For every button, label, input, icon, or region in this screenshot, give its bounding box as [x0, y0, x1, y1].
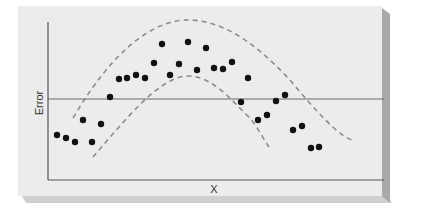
data-point [316, 144, 322, 150]
data-point [264, 112, 270, 118]
x-axis-label: X [210, 183, 218, 195]
data-point [282, 92, 288, 98]
data-point [107, 94, 113, 100]
data-point [54, 132, 60, 138]
chart-panel [18, 6, 382, 196]
data-point [308, 145, 314, 151]
data-point [211, 65, 217, 71]
data-point [220, 66, 226, 72]
data-point [245, 75, 251, 81]
data-point [89, 139, 95, 145]
data-point [80, 117, 86, 123]
data-point [194, 67, 200, 73]
data-point [63, 135, 69, 141]
data-point [167, 72, 173, 78]
data-point [273, 98, 279, 104]
data-point [98, 121, 104, 127]
data-point [185, 39, 191, 45]
data-point [72, 139, 78, 145]
data-point [124, 75, 130, 81]
data-point [116, 76, 122, 82]
data-point [299, 123, 305, 129]
data-point [203, 45, 209, 51]
scatter-chart: X Error [0, 0, 423, 222]
data-point [142, 75, 148, 81]
data-point [255, 117, 261, 123]
chart-figure: X Error [0, 0, 423, 222]
data-point [238, 99, 244, 105]
data-point [229, 59, 235, 65]
data-point [176, 61, 182, 67]
data-point [133, 72, 139, 78]
data-point [290, 127, 296, 133]
data-point [159, 41, 165, 47]
data-point [151, 60, 157, 66]
y-axis-label: Error [33, 90, 45, 115]
